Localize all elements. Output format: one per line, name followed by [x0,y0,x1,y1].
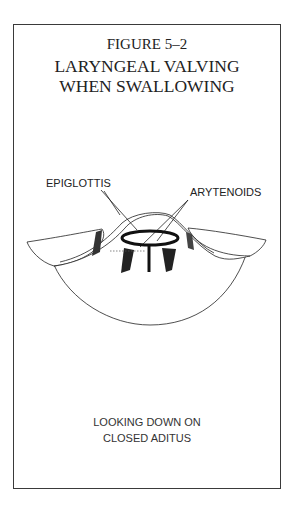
figure-caption: LOOKING DOWN ON CLOSED ADITUS [0,414,294,446]
label-epiglottis: EPIGLOTTIS [46,177,111,189]
label-arytenoids: ARYTENOIDS [190,186,261,198]
caption-line1: LOOKING DOWN ON [0,414,294,430]
caption-line2: CLOSED ADITUS [0,430,294,446]
